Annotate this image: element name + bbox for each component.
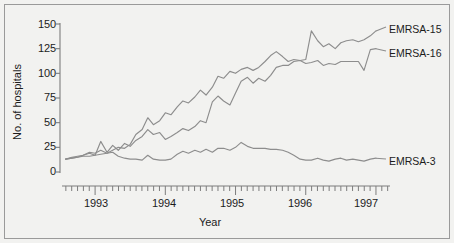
y-axis-tick-50: 50: [22, 116, 56, 128]
y-axis-tick-150: 150: [22, 18, 56, 30]
series-label-emrsa-3: EMRSA-3: [389, 155, 436, 167]
y-axis-tick-125: 125: [22, 42, 56, 54]
series-leader-line: [376, 27, 386, 31]
y-axis-tick-25: 25: [22, 140, 56, 152]
y-axis-tick-0: 0: [22, 165, 56, 177]
y-axis-tick-75: 75: [22, 91, 56, 103]
x-axis-tick-1994: 1994: [142, 197, 186, 209]
x-axis-label: Year: [150, 216, 270, 228]
series-line-emrsa-16: [66, 49, 376, 160]
x-axis-tick-1996: 1996: [278, 197, 322, 209]
y-axis-tick-100: 100: [22, 67, 56, 79]
x-axis-tick-1993: 1993: [74, 197, 118, 209]
y-axis-label: No. of hospitals: [11, 52, 23, 152]
series-leader-line: [376, 49, 386, 51]
series-leader-line: [376, 158, 386, 159]
chart-figure: 150 125 100 75 50 25 0 No. of hospitals …: [0, 0, 454, 243]
x-axis-tick-1995: 1995: [210, 197, 254, 209]
series-line-emrsa-15: [66, 31, 376, 159]
series-label-emrsa-15: EMRSA-15: [389, 23, 442, 35]
series-label-emrsa-16: EMRSA-16: [389, 47, 442, 59]
x-axis-tick-1997: 1997: [344, 197, 388, 209]
